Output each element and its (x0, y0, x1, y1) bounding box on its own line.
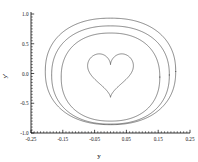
tick-marks (31, 14, 190, 133)
x-axis-label: y (97, 152, 101, 160)
y-tick-label: -1.0 (20, 130, 29, 136)
chart-canvas: -0.25-0.15-0.050.050.150.25-1.0-0.50.00.… (0, 0, 198, 162)
x-tick-label: 0.05 (122, 136, 131, 142)
y-tick-label: 0.0 (22, 71, 29, 77)
y-tick-label: 1.0 (22, 11, 29, 17)
y-tick-label: -0.5 (20, 100, 29, 106)
y-axis-label: y' (1, 74, 9, 79)
orbit-curve (61, 33, 160, 121)
x-tick-label: 0.25 (185, 136, 194, 142)
axes (31, 12, 190, 133)
orbit-curves (45, 18, 175, 125)
x-tick-label: -0.05 (89, 136, 100, 142)
x-tick-label: 0.15 (154, 136, 163, 142)
x-tick-label: -0.15 (57, 136, 68, 142)
phase-portrait-figure: -0.25-0.15-0.050.050.150.25-1.0-0.50.00.… (0, 0, 198, 162)
y-tick-label: 0.5 (22, 41, 29, 47)
x-tick-label: -0.25 (26, 136, 37, 142)
separatrix-heart-curve (88, 54, 134, 97)
orbit-curve (52, 26, 170, 124)
tick-labels: -0.25-0.15-0.050.050.150.25-1.0-0.50.00.… (20, 11, 195, 142)
